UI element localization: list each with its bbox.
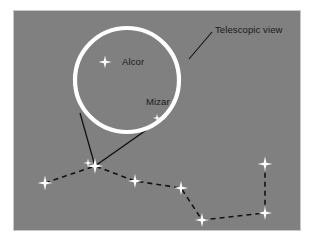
constellation-stars [38,157,273,228]
telescope-circle [75,28,179,132]
mizar-label: Mizar [146,97,170,107]
constellation-scene [0,0,317,244]
telescopic-view-label: Telescopic view [215,25,283,35]
alcor-label: Alcor [122,57,144,67]
figure-container: Telescopic view Alcor Mizar [0,0,317,244]
constellation-lines [45,164,265,220]
